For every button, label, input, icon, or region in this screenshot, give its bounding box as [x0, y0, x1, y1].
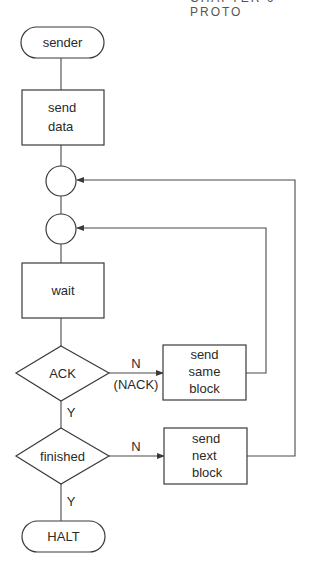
- ack-nack-sublabel: (NACK): [110, 377, 162, 392]
- ack-yes-label: Y: [64, 405, 78, 420]
- finished-yes-label: Y: [64, 494, 78, 509]
- send-same-block-label: send same block: [163, 344, 246, 397]
- finished-no-label: N: [126, 439, 146, 454]
- send-data-label: send data: [22, 98, 104, 136]
- wait-label: wait: [22, 281, 104, 300]
- halt-label: HALT: [22, 527, 105, 546]
- ack-label: ACK: [16, 364, 109, 383]
- join-connector-2: [46, 214, 76, 244]
- ack-no-label: N: [126, 356, 146, 371]
- finished-label: finished: [16, 447, 109, 466]
- edge-send-next-join1: [77, 180, 295, 456]
- send-next-block-label: send next block: [164, 428, 247, 481]
- join-connector-1: [46, 166, 76, 196]
- start-label: sender: [21, 33, 104, 52]
